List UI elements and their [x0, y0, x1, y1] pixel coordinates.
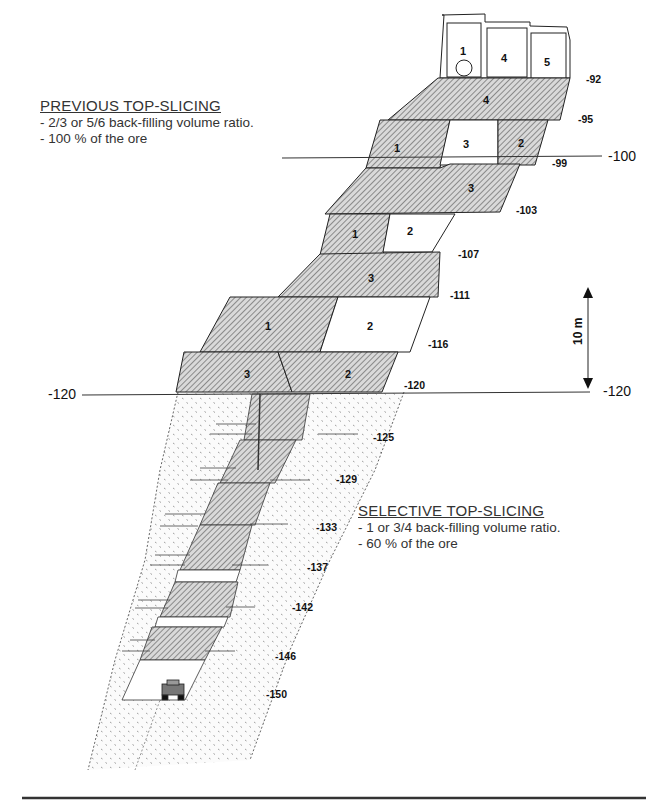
svg-text:-142: -142 [292, 601, 313, 613]
svg-text:-99: -99 [552, 157, 567, 169]
svg-text:3: 3 [463, 138, 469, 150]
svg-text:-125: -125 [373, 431, 394, 443]
svg-text:-146: -146 [275, 650, 296, 662]
svg-text:-137: -137 [307, 561, 328, 573]
svg-text:2: 2 [367, 320, 373, 332]
svg-text:-107: -107 [458, 248, 479, 260]
svg-text:1: 1 [352, 228, 358, 240]
svg-text:1: 1 [394, 142, 400, 154]
selective-method-note: SELECTIVE TOP-SLICING - 1 or 3/4 back-fi… [358, 503, 561, 552]
svg-text:3: 3 [468, 182, 474, 194]
svg-text:2: 2 [345, 368, 351, 380]
svg-text:-116: -116 [428, 338, 449, 350]
upper-slices [176, 14, 570, 392]
previous-method-title: PREVIOUS TOP-SLICING [40, 98, 254, 114]
selective-method-title: SELECTIVE TOP-SLICING [358, 503, 561, 519]
svg-text:4: 4 [483, 94, 490, 106]
svg-text:1: 1 [265, 320, 271, 332]
svg-text:-120: -120 [603, 383, 631, 399]
svg-text:2: 2 [518, 137, 524, 149]
top-cell-5-label: 5 [544, 56, 550, 68]
svg-text:-92: -92 [586, 73, 601, 85]
svg-text:-100: -100 [608, 148, 636, 164]
scale-label: 10 m [571, 318, 585, 345]
svg-text:-111: -111 [450, 289, 470, 301]
svg-text:-133: -133 [316, 521, 337, 533]
svg-text:-120: -120 [48, 386, 76, 402]
svg-text:-120: -120 [404, 379, 425, 391]
previous-method-note: PREVIOUS TOP-SLICING - 2/3 or 5/6 back-f… [40, 98, 254, 147]
svg-text:2: 2 [407, 225, 413, 237]
top-cell-4-label: 4 [501, 52, 508, 64]
top-cell-1-label: 1 [460, 45, 466, 57]
svg-text:3: 3 [244, 368, 250, 380]
circle-opening-icon [456, 60, 472, 76]
scale-bar: 10 m [571, 287, 593, 389]
svg-text:-129: -129 [336, 473, 357, 485]
svg-text:-150: -150 [266, 688, 287, 700]
svg-text:-95: -95 [578, 113, 593, 125]
svg-text:3: 3 [368, 272, 374, 284]
svg-text:-103: -103 [516, 204, 537, 216]
